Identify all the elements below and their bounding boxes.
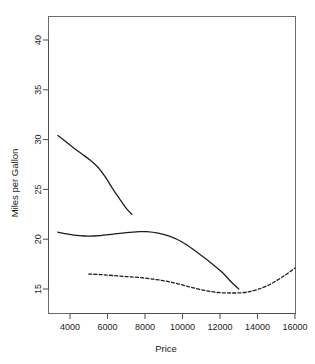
x-axis-ticks <box>70 314 295 320</box>
series-middle-curve <box>58 232 239 289</box>
series-upper-curve <box>58 136 132 215</box>
x-tick-label: 14000 <box>245 322 270 332</box>
y-tick-label: 25 <box>33 184 43 194</box>
series-lower-curve-dashed <box>89 268 295 293</box>
x-tick-label: 12000 <box>207 322 232 332</box>
y-tick-label: 35 <box>33 85 43 95</box>
x-tick-label: 10000 <box>170 322 195 332</box>
x-tick-label: 4000 <box>60 322 80 332</box>
x-axis-title: Price <box>155 343 177 354</box>
x-tick-label: 16000 <box>282 322 307 332</box>
y-tick-label: 15 <box>33 284 43 294</box>
x-tick-label: 8000 <box>135 322 155 332</box>
chart-figure: 40 35 30 25 20 15 4000 6000 8000 10000 1… <box>0 0 315 364</box>
y-tick-label: 40 <box>33 35 43 45</box>
series-layer <box>58 136 295 293</box>
y-axis-title: Miles per Gallon <box>9 149 20 218</box>
y-tick-label: 30 <box>33 135 43 145</box>
x-axis-tick-labels: 4000 6000 8000 10000 12000 14000 16000 <box>60 322 308 332</box>
y-axis-ticks <box>43 40 49 289</box>
y-tick-label: 20 <box>33 234 43 244</box>
x-tick-label: 6000 <box>97 322 117 332</box>
plot-panel-border <box>49 17 296 314</box>
y-axis-tick-labels: 40 35 30 25 20 15 <box>33 35 43 294</box>
line-chart: 40 35 30 25 20 15 4000 6000 8000 10000 1… <box>0 0 315 364</box>
